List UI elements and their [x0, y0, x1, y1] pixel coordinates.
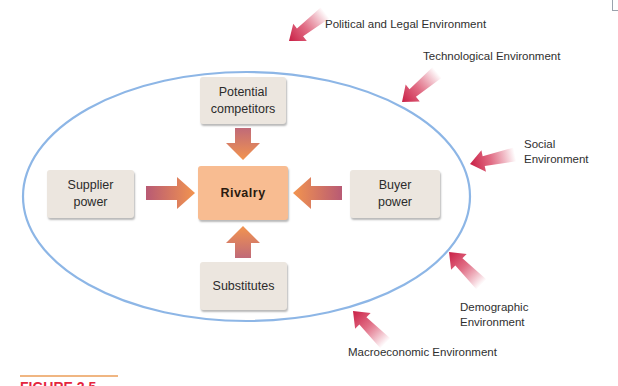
- page-corner-mark: [612, 0, 618, 11]
- macroeconomic-environment-label: Macroeconomic Environment: [348, 345, 497, 360]
- supplier-power-line2: power: [68, 194, 114, 211]
- buyer-power-line2: power: [378, 194, 412, 211]
- potential-competitors-line1: Potential: [211, 84, 276, 101]
- arrow-up-to-rivalry: [226, 226, 260, 258]
- technological-environment-label: Technological Environment: [423, 49, 560, 64]
- arrow-left-to-rivalry: [293, 177, 342, 209]
- demographic-environment-label: Demographic Environment: [460, 300, 528, 330]
- technological-arrow-icon: [395, 64, 444, 110]
- social-environment-label: Social Environment: [524, 137, 589, 167]
- caption-rule: [20, 375, 118, 377]
- supplier-power-box: Supplier power: [47, 170, 134, 218]
- social-environment-line1: Social: [524, 137, 589, 152]
- social-arrow-icon: [468, 144, 518, 175]
- arrow-down-to-rivalry: [226, 128, 260, 160]
- buyer-power-box: Buyer power: [350, 170, 440, 218]
- substitutes-box: Substitutes: [200, 262, 287, 310]
- social-environment-line2: Environment: [524, 152, 589, 167]
- figure-caption-label: FIGURE 2.5: [20, 380, 96, 386]
- arrow-right-to-rivalry: [146, 177, 195, 209]
- political-environment-label: Political and Legal Environment: [325, 17, 486, 32]
- demographic-environment-line2: Environment: [460, 315, 528, 330]
- potential-competitors-box: Potential competitors: [200, 77, 286, 124]
- supplier-power-line1: Supplier: [68, 177, 114, 194]
- demographic-environment-line1: Demographic: [460, 300, 528, 315]
- rivalry-box: Rivalry: [198, 166, 288, 220]
- rivalry-label: Rivalry: [220, 185, 265, 202]
- substitutes-label: Substitutes: [213, 278, 275, 295]
- buyer-power-line1: Buyer: [378, 177, 412, 194]
- potential-competitors-line2: competitors: [211, 101, 276, 118]
